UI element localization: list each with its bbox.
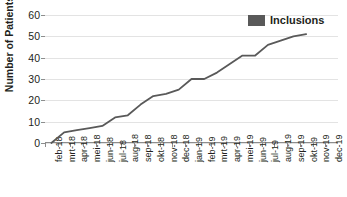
legend-swatch-inclusions — [248, 15, 265, 26]
x-tick-mark-feb-18 — [45, 143, 46, 147]
y-tick-label-10: 10 — [12, 117, 40, 127]
x-tick-label-jul-18: jul-18 — [119, 140, 128, 162]
x-tick-label-jul-19: jul-19 — [271, 140, 280, 162]
plot-area: 0102030405060 feb-18mrt-18apr-18mei-18ju… — [45, 15, 338, 143]
y-tick-label-60: 60 — [12, 10, 40, 20]
y-tick-label-20: 20 — [12, 95, 40, 105]
legend: Inclusions — [248, 14, 324, 26]
series-line-inclusions — [51, 34, 306, 143]
legend-label-inclusions: Inclusions — [270, 14, 324, 26]
y-tick-label-50: 50 — [12, 31, 40, 41]
series-inclusions — [45, 15, 338, 143]
y-tick-label-30: 30 — [12, 74, 40, 84]
y-tick-label-40: 40 — [12, 53, 40, 63]
line-chart: Number of Patients 0102030405060 feb-18m… — [0, 0, 347, 197]
y-tick-label-0: 0 — [12, 138, 40, 148]
